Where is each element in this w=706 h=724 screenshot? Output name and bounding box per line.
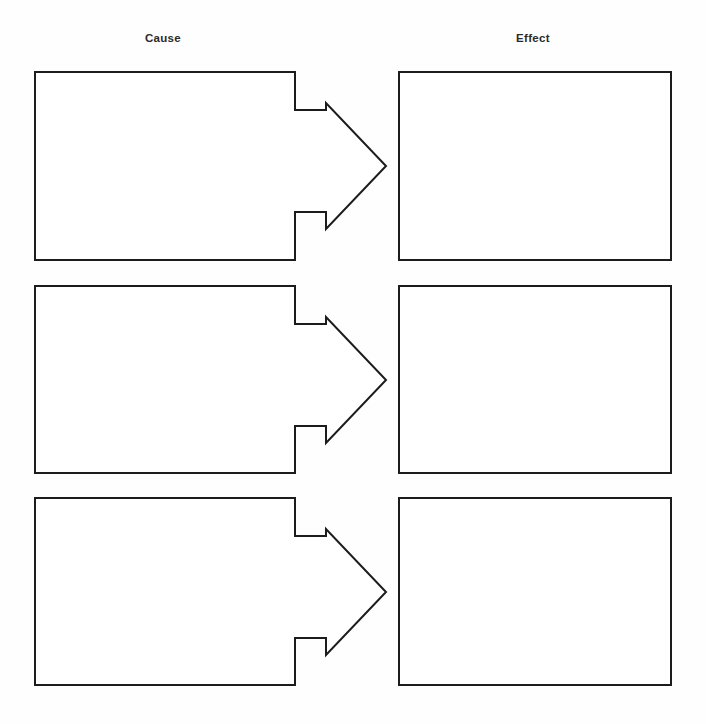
- effect-input-row-3[interactable]: [404, 502, 666, 686]
- effect-input-row-1[interactable]: [404, 76, 666, 260]
- worksheet-canvas: Cause Effect: [0, 0, 706, 724]
- cause-input-row-1[interactable]: [40, 76, 290, 260]
- cause-input-row-2[interactable]: [40, 290, 290, 474]
- cause-input-row-3[interactable]: [40, 502, 290, 686]
- effect-input-row-2[interactable]: [404, 290, 666, 474]
